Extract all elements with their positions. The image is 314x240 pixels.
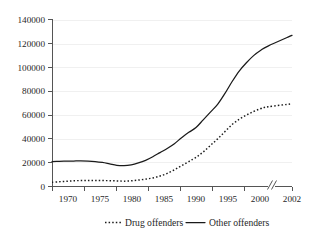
legend-label-other-offenders: Other offenders [209, 217, 270, 228]
x-tick-label: 1980 [123, 194, 142, 204]
x-tick-label: 2002 [283, 194, 302, 204]
x-tick-label: 1985 [155, 194, 174, 204]
legend-label-drug-offenders: Drug offenders [125, 217, 183, 228]
y-tick-label: 120000 [17, 39, 45, 49]
series-line-other-offenders [52, 35, 292, 165]
series-line-drug-offenders [52, 104, 292, 183]
x-tick-label: 1990 [187, 194, 206, 204]
y-tick-label: 20000 [22, 158, 45, 168]
y-tick-label: 140000 [17, 15, 45, 25]
y-tick-label: 100000 [17, 63, 45, 73]
x-axis-ticks [52, 187, 292, 192]
x-tick-label: 1995 [219, 194, 238, 204]
y-axis-ticks [48, 20, 53, 187]
y-tick-label: 40000 [22, 134, 45, 144]
x-axis-tick-labels: 1970 1975 1980 1985 1990 1995 2000 2002 [59, 194, 302, 204]
chart-legend: Drug offenders Other offenders [105, 217, 270, 228]
axis-break-icon [268, 181, 277, 190]
y-tick-label: 60000 [22, 110, 45, 120]
x-tick-label: 1970 [59, 194, 78, 204]
x-tick-label: 1975 [91, 194, 110, 204]
gridlines [52, 20, 292, 162]
chart-container: 0 20000 40000 60000 80000 100000 120000 … [0, 0, 314, 240]
line-chart: 0 20000 40000 60000 80000 100000 120000 … [0, 0, 314, 240]
y-tick-label: 80000 [22, 86, 45, 96]
y-axis-tick-labels: 0 20000 40000 60000 80000 100000 120000 … [17, 15, 45, 192]
y-tick-label: 0 [40, 182, 45, 192]
x-tick-label: 2000 [251, 194, 270, 204]
